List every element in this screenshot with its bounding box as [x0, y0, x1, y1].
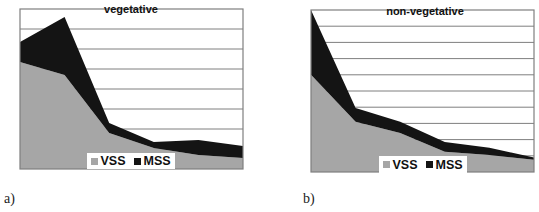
vss-swatch-icon [91, 158, 98, 165]
mss-swatch-icon [134, 158, 141, 165]
chart-b-legend: VSS MSS [379, 156, 467, 173]
chart-a-title: vegetative [104, 4, 158, 15]
legend-item-vss: VSS [383, 158, 417, 172]
legend-label-mss: MSS [435, 158, 462, 172]
legend-item-mss: MSS [426, 158, 462, 172]
chart-b-plot [311, 10, 534, 172]
legend-label-vss: VSS [100, 154, 125, 168]
legend-item-vss: VSS [91, 154, 125, 168]
legend-label-mss: MSS [143, 154, 170, 168]
mss-swatch-icon [426, 161, 433, 168]
vss-swatch-icon [383, 161, 390, 168]
chart-non-vegetative [311, 10, 534, 172]
panel-label-b: b) [303, 192, 315, 206]
legend-label-vss: VSS [392, 158, 417, 172]
chart-a-plot [20, 9, 243, 169]
legend-item-mss: MSS [134, 154, 170, 168]
panel-label-a: a) [4, 192, 15, 206]
chart-a-legend: VSS MSS [87, 153, 175, 169]
chart-vegetative [20, 9, 243, 169]
chart-b-title: non-vegetative [386, 6, 464, 17]
